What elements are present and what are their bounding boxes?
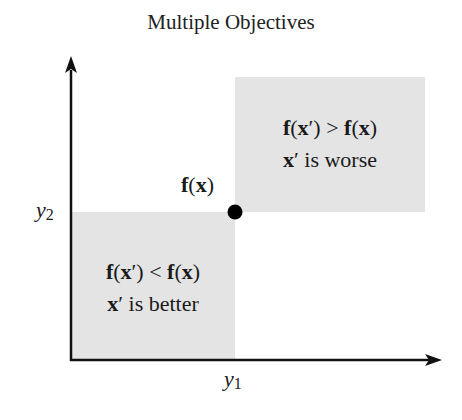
x-symbol: x bbox=[298, 115, 309, 140]
better-inequality: f(x′) < f(x) bbox=[71, 256, 235, 288]
x-symbol: x bbox=[107, 291, 118, 316]
diagram-canvas bbox=[0, 0, 462, 420]
better-caption: x′ is better bbox=[71, 288, 235, 320]
worse-caption: x′ is worse bbox=[235, 144, 425, 176]
x-symbol: x bbox=[359, 115, 370, 140]
x-symbol: x bbox=[182, 259, 193, 284]
prime-symbol: ′ bbox=[309, 115, 314, 140]
x-axis-label-var: y bbox=[224, 366, 234, 391]
worse-inequality: f(x′) > f(x) bbox=[235, 112, 425, 144]
f-symbol: f bbox=[106, 259, 113, 284]
better-region-label: f(x′) < f(x) x′ is better bbox=[71, 256, 235, 320]
f-symbol: f bbox=[283, 115, 290, 140]
y-axis-label-sub: 2 bbox=[46, 206, 54, 223]
greater-than-symbol: > bbox=[326, 115, 338, 140]
y-axis-label: y2 bbox=[36, 197, 54, 224]
x-symbol: x bbox=[283, 147, 294, 172]
x-axis-label-sub: 1 bbox=[234, 375, 242, 392]
x-symbol: x bbox=[121, 259, 132, 284]
worse-text: is worse bbox=[299, 147, 377, 172]
point-label-x: x bbox=[196, 172, 207, 197]
worse-region-label: f(x′) > f(x) x′ is worse bbox=[235, 112, 425, 176]
less-than-symbol: < bbox=[149, 259, 161, 284]
f-symbol: f bbox=[167, 259, 174, 284]
prime-symbol: ′ bbox=[132, 259, 137, 284]
x-axis-label: y1 bbox=[224, 366, 242, 393]
better-text: is better bbox=[123, 291, 199, 316]
reference-point bbox=[228, 205, 243, 220]
paren-close: ) bbox=[207, 172, 214, 197]
paren-open: ( bbox=[188, 172, 195, 197]
y-axis-label-var: y bbox=[36, 197, 46, 222]
f-symbol: f bbox=[344, 115, 351, 140]
point-label: f(x) bbox=[181, 172, 214, 198]
